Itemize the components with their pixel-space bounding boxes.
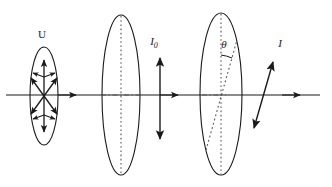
polarization-diagram: U I0 θ I xyxy=(0,0,332,187)
unpolarized-arrow-upper-right xyxy=(44,73,55,77)
unpolarized-arrow-lower-right xyxy=(44,115,55,119)
intensity-initial-label: I0 xyxy=(149,35,158,50)
intensity-initial-subscript: 0 xyxy=(154,41,158,50)
intensity-final-vector: I xyxy=(254,37,283,128)
unpolarized-arrow-upper-left xyxy=(33,73,44,77)
analyzer: θ xyxy=(200,13,242,175)
diagram-canvas: U I0 θ I xyxy=(0,0,332,187)
intensity-final-label: I xyxy=(277,37,283,49)
unpolarized-arrow-lower-left xyxy=(33,115,44,119)
intensity-initial-vector: I0 xyxy=(149,35,160,139)
theta-arc xyxy=(221,55,232,58)
theta-label: θ xyxy=(221,38,227,50)
unpolarized-source: U xyxy=(30,28,58,145)
unpolarized-label: U xyxy=(38,28,46,40)
